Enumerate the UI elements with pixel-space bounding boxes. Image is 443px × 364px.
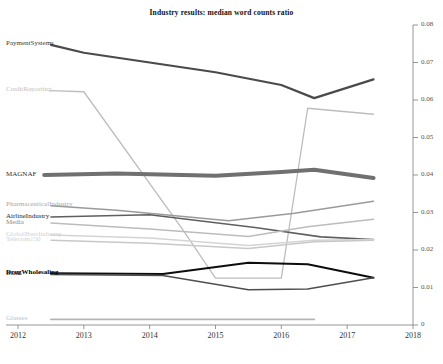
y-axis-tick-label: 0.06: [421, 95, 433, 103]
x-axis-tick-label: 2016: [261, 331, 301, 340]
y-axis-tick-label: 0.08: [421, 20, 433, 28]
y-axis-tick-label: 0.05: [421, 133, 433, 141]
chart-container: Industry results: median word counts rat…: [0, 0, 443, 364]
y-axis-tick-label: 0.07: [421, 58, 433, 66]
x-axis-tick-label: 2014: [130, 331, 170, 340]
series-line-creditreporting: [51, 91, 374, 279]
series-line-pharmaceuticalindustry: [51, 201, 374, 221]
series-label-glasses: Glasses: [6, 315, 27, 322]
series-line-telecom150: [51, 240, 374, 248]
series-line-paymentsystems: [51, 45, 374, 98]
series-label-magnaf: MAGNAF: [6, 171, 36, 178]
y-axis-tick-label: 0.04: [421, 170, 433, 178]
chart-plot-area: [0, 0, 443, 364]
series-label-media: Media: [6, 219, 24, 226]
x-axis-tick-label: 2015: [196, 331, 236, 340]
y-axis-tick-label: 0: [421, 320, 425, 328]
y-axis-tick-label: 0.03: [421, 208, 433, 216]
series-label-creditreporting: CreditReporting: [6, 86, 52, 93]
series-label-bank: Bank: [6, 270, 21, 277]
series-label-paymentsystems: PaymentSystems: [6, 40, 54, 47]
x-axis-tick-label: 2012: [0, 331, 38, 340]
y-axis-tick-label: 0.02: [421, 245, 433, 253]
series-label-telecom150: Telecom150: [6, 236, 41, 243]
x-axis-tick-label: 2018: [393, 331, 433, 340]
series-label-pharmaceuticalindustry: PharmaceuticalIndustry: [6, 201, 72, 208]
x-axis-tick-label: 2017: [327, 331, 367, 340]
series-line-airlineindustry: [51, 215, 374, 240]
y-axis-tick-label: 0.01: [421, 283, 433, 291]
series-line-bank: [51, 274, 374, 289]
series-line-magnaf: [44, 170, 373, 178]
x-axis-tick-label: 2013: [64, 331, 104, 340]
